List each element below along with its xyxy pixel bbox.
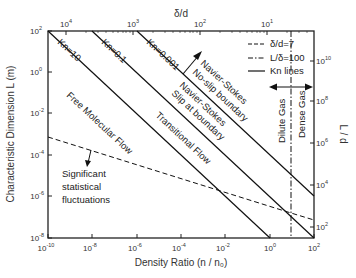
svg-text:10-6: 10-6 [30, 190, 44, 201]
kn-10-label: Kn=10 [56, 36, 84, 63]
free-molecular-label: Free Molecular Flow [65, 89, 136, 156]
svg-text:102: 102 [194, 18, 206, 29]
svg-text:104: 104 [60, 18, 72, 29]
svg-text:10-8: 10-8 [30, 232, 44, 243]
legend-label-delta-d: δ/d=7 [270, 38, 294, 49]
kn-0.1-label: Kn=0.1 [100, 36, 130, 65]
y2-axis-title: L / d [338, 124, 349, 143]
svg-text:10-2: 10-2 [216, 242, 230, 253]
arrow-icon-down [85, 150, 91, 167]
svg-text:106: 106 [316, 137, 328, 148]
dense-gas-label: Dense Gas [296, 90, 307, 138]
svg-text:101: 101 [261, 18, 273, 29]
legend-label-l-delta: L/δ=100 [270, 52, 305, 63]
fluctuations-label-2: statistical [62, 181, 101, 192]
svg-text:102: 102 [30, 25, 42, 36]
dilute-gas-label: Dilute Gas [276, 98, 287, 143]
fluctuations-label-1: Significant [62, 168, 106, 179]
y-axis-title: Characteristic Dimension L (m) [5, 66, 16, 203]
x-axis-title: Density Ratio (n / n₀) [135, 257, 228, 268]
x-tick-labels: 10-10 10-8 10-6 10-4 10-2 100 102 [38, 242, 320, 253]
svg-text:102: 102 [308, 242, 320, 253]
svg-text:1010: 1010 [316, 55, 331, 66]
svg-text:108: 108 [316, 95, 328, 106]
legend-label-kn: Kn lines [270, 65, 304, 76]
svg-text:10-10: 10-10 [38, 242, 55, 253]
x2-axis-title: δ/d [174, 8, 188, 19]
svg-text:10-8: 10-8 [83, 242, 97, 253]
svg-text:10-6: 10-6 [128, 242, 142, 253]
legend: δ/d=7 L/δ=100 Kn lines [248, 38, 305, 76]
svg-text:102: 102 [316, 221, 328, 232]
y-tick-labels: 102 100 10-2 10-4 10-6 10-8 [30, 25, 44, 243]
chart: 10-10 10-8 10-6 10-4 10-2 100 102 102 10… [0, 0, 356, 278]
svg-text:100: 100 [30, 66, 42, 77]
fluctuations-label-3: fluctuations [62, 194, 110, 205]
y2-tick-labels: 1010 108 106 104 102 [316, 55, 331, 232]
svg-text:104: 104 [316, 179, 328, 190]
x2-tick-labels: 104 103 102 101 [60, 18, 273, 29]
svg-text:103: 103 [127, 18, 139, 29]
svg-text:10-2: 10-2 [30, 107, 44, 118]
svg-text:100: 100 [264, 242, 276, 253]
svg-text:10-4: 10-4 [30, 149, 44, 160]
svg-text:10-4: 10-4 [172, 242, 186, 253]
kn-10-line [48, 31, 270, 238]
kn-0.001-label: Kn=0.001 [145, 36, 182, 72]
